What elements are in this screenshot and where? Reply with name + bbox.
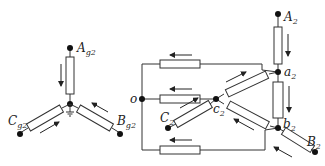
node-o	[139, 96, 145, 102]
resistor-a2-branch	[274, 27, 282, 64]
left-star-network: Ag2 Cg2 Bg2	[8, 41, 136, 137]
label-o: o	[130, 92, 137, 106]
right-network: A2 a2 b2 c2 C2 B2 o	[130, 10, 321, 157]
wire	[142, 99, 160, 150]
wire	[200, 128, 278, 150]
current-arrow-icon	[92, 103, 108, 112]
label-a2: a2	[284, 65, 296, 81]
wire	[200, 64, 278, 72]
current-arrow-icon	[226, 72, 246, 82]
resistor-top-loop	[160, 60, 200, 68]
resistor-bottom-loop	[160, 146, 200, 154]
wire	[142, 64, 160, 99]
resistor-o-c2	[160, 95, 200, 103]
resistor-c2-a2	[225, 71, 268, 97]
circuit-diagram: Ag2 Cg2 Bg2	[0, 0, 325, 166]
resistor-a-branch	[66, 57, 74, 94]
node-a-g2	[67, 45, 73, 51]
label-c2: c2	[213, 102, 225, 118]
label-b-g2: Bg2	[116, 114, 136, 130]
node-b2	[275, 125, 281, 131]
current-arrow-icon	[274, 147, 292, 157]
resistor-a2-b2	[273, 82, 283, 118]
resistor-b-branch	[77, 105, 114, 131]
label-B2: B2	[306, 135, 321, 151]
node-c-g2	[17, 131, 23, 137]
node-a2	[275, 69, 281, 75]
node-A2	[275, 11, 281, 17]
node-b-g2	[117, 131, 123, 137]
resistor-C2-c2	[174, 101, 213, 128]
resistor-c2-b2	[227, 101, 270, 129]
label-C2: C2	[160, 111, 174, 127]
label-c-g2: Cg2	[8, 114, 27, 130]
label-a-g2: Ag2	[76, 41, 96, 57]
resistor-c-branch	[27, 105, 64, 131]
label-b2: b2	[283, 117, 296, 133]
label-A2: A2	[283, 10, 298, 26]
